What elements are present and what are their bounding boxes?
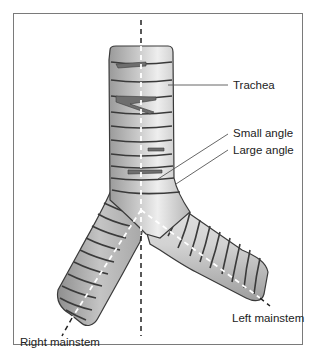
label-right-mainstem: Right mainstem (20, 337, 100, 349)
label-trachea: Trachea (233, 80, 275, 92)
label-large-angle: Large angle (233, 145, 294, 157)
trachea-tube (109, 46, 190, 238)
label-small-angle: Small angle (233, 128, 293, 140)
label-left-mainstem: Left mainstem (232, 313, 304, 325)
trachea-illustration (0, 0, 312, 364)
large-angle-leader-line (176, 150, 228, 184)
